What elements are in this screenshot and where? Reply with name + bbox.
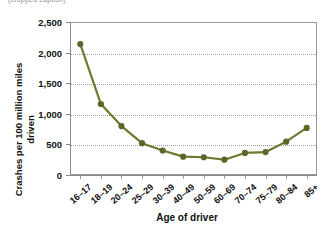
data-point-marker: 20–24: 800 <box>118 123 124 129</box>
data-point-marker: 70–74: 360 <box>242 150 248 156</box>
data-series-line: 16–17: 214018–19: 116020–24: 80025–29: 5… <box>0 0 330 233</box>
series-line <box>80 44 306 160</box>
data-point-marker: 25–29: 520 <box>139 140 145 146</box>
chart-figure: (cropped caption) 05001,0001,5002,0002,5… <box>0 0 330 233</box>
data-point-marker: 40–49: 300 <box>180 154 186 160</box>
data-point-marker: 18–19: 1160 <box>98 101 104 107</box>
x-axis-title: Age of driver <box>156 212 218 223</box>
data-point-marker: 16–17: 2140 <box>77 41 83 47</box>
data-point-marker: 80–84: 545 <box>283 139 289 145</box>
x-axis-title-row: Age of driver <box>0 212 330 223</box>
data-point-marker: 85+: 770 <box>304 125 310 131</box>
data-point-marker: 75–79: 375 <box>262 149 268 155</box>
data-point-marker: 30–39: 400 <box>160 147 166 153</box>
data-point-marker: 60–69: 250 <box>221 157 227 163</box>
data-point-marker: 50–59: 290 <box>201 154 207 160</box>
